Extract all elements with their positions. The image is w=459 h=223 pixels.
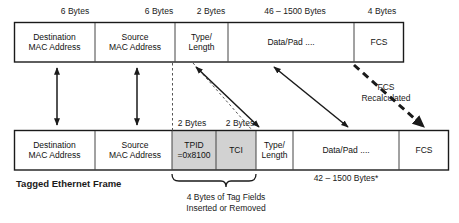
tagged-frame-dividers [95, 131, 399, 170]
fcs-recalculated-arrow [354, 65, 424, 127]
diagram-vector-layer [0, 0, 459, 223]
tagged-frame-outline [15, 131, 449, 171]
tag-insertion-guides [173, 63, 253, 131]
mapping-arrow-data-pad [274, 67, 348, 127]
ethernet-frame-diagram: 6 Bytes 6 Bytes 2 Bytes 46 – 1500 Bytes … [0, 0, 459, 223]
untagged-frame-outline [15, 23, 404, 63]
tag-fields-brace [172, 174, 256, 187]
mapping-arrow-type-length [196, 67, 259, 127]
untagged-frame-dividers [95, 23, 354, 62]
